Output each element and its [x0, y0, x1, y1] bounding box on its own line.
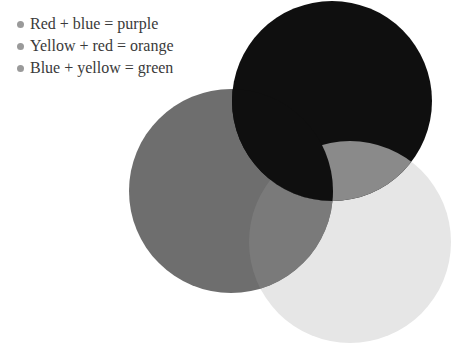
venn-diagram: [0, 0, 458, 344]
